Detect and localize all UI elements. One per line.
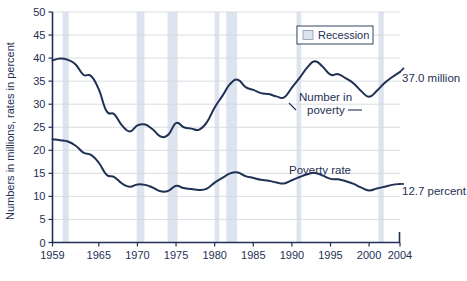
y-axis-title: Numbers in millions, rates in percent [4, 42, 16, 220]
legend-recession-label: Recession [318, 29, 369, 41]
x-axis-tick-label: 1959 [40, 249, 64, 261]
y-axis-tick-label: 50 [33, 6, 45, 18]
poverty-rate-label: Poverty rate [289, 164, 351, 176]
x-axis-tick-label: 1970 [125, 249, 149, 261]
y-axis-tick-label: 15 [33, 167, 45, 179]
number-in-poverty-label-line2: poverty [307, 104, 345, 116]
y-axis-tick-label: 40 [33, 52, 45, 64]
x-axis-tick-label: 1985 [241, 249, 265, 261]
x-axis-tick-label: 1965 [87, 249, 111, 261]
x-axis-tick-label: 1980 [202, 249, 226, 261]
x-axis-tick-label: 1975 [164, 249, 188, 261]
y-axis-tick-label: 5 [39, 213, 45, 225]
y-axis-tick-label: 0 [39, 237, 45, 249]
y-axis-tick-label: 30 [33, 98, 45, 110]
y-axis-tick-label: 45 [33, 29, 45, 41]
y-axis-tick-label: 25 [33, 121, 45, 133]
y-axis-tick-label: 35 [33, 75, 45, 87]
x-axis-tick-label: 1995 [318, 249, 342, 261]
chart-canvas: 05101520253035404550 1959196519701975198… [0, 0, 467, 281]
rate-end-value-label: 12.7 percent [402, 185, 467, 197]
number-end-value-label: 37.0 million [402, 72, 460, 84]
number-in-poverty-label-line1: Number in [299, 91, 352, 103]
x-axis-tick-label: 2004 [388, 249, 412, 261]
poverty-chart-figure: 05101520253035404550 1959196519701975198… [0, 0, 467, 281]
recession-swatch-icon [303, 31, 313, 40]
y-axis-tick-label: 20 [33, 144, 45, 156]
legend-box: Recession [297, 26, 373, 44]
x-axis-tick-label: 1990 [280, 249, 304, 261]
x-axis-tick-label: 2000 [357, 249, 381, 261]
y-axis-tick-label: 10 [33, 190, 45, 202]
